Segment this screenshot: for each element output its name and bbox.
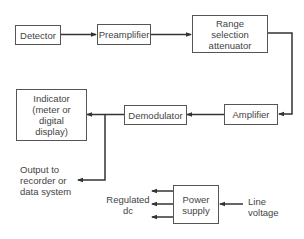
- output-label: Output to recorder or data system: [20, 164, 80, 197]
- preamplifier-block: Preamplifier: [97, 24, 151, 45]
- regulated-dc-label: Regulated dc: [104, 194, 152, 216]
- demodulator-label: Demodulator: [128, 110, 182, 121]
- demodulator-block: Demodulator: [124, 105, 187, 125]
- line-voltage-label: Line voltage: [248, 196, 288, 218]
- power-supply-block: Power supply: [173, 185, 219, 224]
- indicator-block: Indicator (meter or digital display): [16, 89, 87, 141]
- range-selection-attenuator-block: Range selection attenuator: [192, 15, 268, 53]
- range-selection-attenuator-label: Range selection attenuator: [199, 18, 261, 51]
- preamplifier-label: Preamplifier: [99, 29, 150, 40]
- amplifier-block: Amplifier: [224, 104, 278, 125]
- detector-block: Detector: [15, 25, 61, 45]
- power-supply-label: Power supply: [180, 194, 212, 216]
- amplifier-label: Amplifier: [233, 109, 270, 120]
- detector-label: Detector: [20, 30, 56, 41]
- indicator-label: Indicator (meter or digital display): [23, 93, 80, 137]
